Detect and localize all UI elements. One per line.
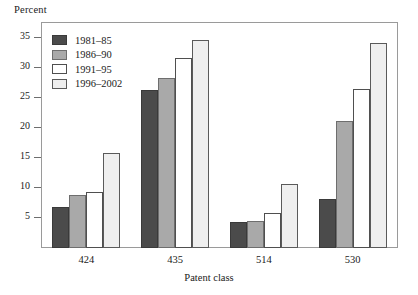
bar[interactable] bbox=[86, 192, 103, 248]
bar[interactable] bbox=[230, 222, 247, 248]
x-tick-label: 435 bbox=[167, 254, 183, 265]
x-tick-label: 530 bbox=[345, 254, 361, 265]
bar[interactable] bbox=[247, 221, 264, 248]
legend-swatch-icon bbox=[52, 79, 67, 89]
x-axis-title: Patent class bbox=[0, 272, 418, 283]
legend-label: 1981–85 bbox=[75, 35, 112, 46]
bar[interactable] bbox=[319, 199, 336, 248]
bar-group bbox=[319, 23, 387, 248]
y-axis-title: Percent bbox=[14, 4, 47, 15]
chart-legend: 1981–851986–901991–951996–2002 bbox=[52, 33, 172, 91]
bar[interactable] bbox=[158, 78, 175, 248]
bar[interactable] bbox=[281, 184, 298, 248]
bar[interactable] bbox=[336, 121, 353, 248]
bar[interactable] bbox=[52, 207, 69, 248]
legend-item[interactable]: 1981–85 bbox=[52, 33, 172, 48]
legend-swatch-icon bbox=[52, 50, 67, 60]
bar[interactable] bbox=[192, 40, 209, 248]
bar-group bbox=[230, 23, 298, 248]
legend-label: 1996–2002 bbox=[75, 78, 122, 89]
y-tick-label: 10 bbox=[20, 180, 30, 191]
legend-label: 1986–90 bbox=[75, 49, 112, 60]
y-tick-mark bbox=[34, 187, 41, 188]
bar[interactable] bbox=[175, 58, 192, 248]
legend-item[interactable]: 1991–95 bbox=[52, 62, 172, 77]
legend-item[interactable]: 1996–2002 bbox=[52, 77, 172, 92]
y-tick-mark bbox=[34, 97, 41, 98]
bar[interactable] bbox=[69, 195, 86, 248]
legend-swatch-icon bbox=[52, 64, 67, 74]
bar[interactable] bbox=[264, 213, 281, 248]
y-tick-label: 35 bbox=[20, 30, 30, 41]
bar[interactable] bbox=[370, 43, 387, 248]
y-tick-label: 30 bbox=[20, 60, 30, 71]
y-tick-mark bbox=[34, 67, 41, 68]
y-tick-label: 5 bbox=[25, 210, 30, 221]
y-tick-label: 20 bbox=[20, 120, 30, 131]
bar-chart: Percent 5101520253035 424435514530 Paten… bbox=[0, 0, 418, 295]
y-tick-mark bbox=[34, 217, 41, 218]
y-tick-label: 25 bbox=[20, 90, 30, 101]
bar[interactable] bbox=[103, 153, 120, 248]
y-tick-mark bbox=[34, 157, 41, 158]
bar[interactable] bbox=[141, 90, 158, 248]
y-tick-mark bbox=[34, 127, 41, 128]
legend-swatch-icon bbox=[52, 35, 67, 45]
y-tick-mark bbox=[34, 37, 41, 38]
x-tick-label: 424 bbox=[79, 254, 95, 265]
bar[interactable] bbox=[353, 89, 370, 248]
legend-item[interactable]: 1986–90 bbox=[52, 48, 172, 63]
legend-label: 1991–95 bbox=[75, 64, 112, 75]
y-tick-label: 15 bbox=[20, 150, 30, 161]
x-tick-label: 514 bbox=[256, 254, 272, 265]
